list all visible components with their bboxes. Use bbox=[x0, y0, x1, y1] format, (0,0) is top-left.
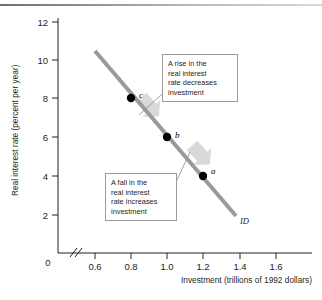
x-tick-label-1.0: 1.0 bbox=[160, 261, 173, 272]
annotation-fall-line-1: A fall in the bbox=[111, 178, 171, 188]
x-axis-ticks bbox=[95, 253, 276, 259]
annotation-fall-line-2: real interest bbox=[111, 188, 171, 198]
x-tick-label-1.4: 1.4 bbox=[233, 261, 246, 272]
cut-off-caption bbox=[8, 290, 308, 300]
y-tick-label-0: 0 bbox=[45, 257, 50, 268]
data-point-label-c: c bbox=[139, 90, 143, 100]
data-point-b[interactable] bbox=[163, 133, 171, 141]
x-axis-title: Investment (trillions of 1992 dollars) bbox=[181, 275, 312, 285]
annotation-rise-line-1: A rise in the bbox=[168, 59, 232, 69]
y-axis-ticks bbox=[52, 22, 58, 215]
data-point-c[interactable] bbox=[127, 94, 135, 102]
annotation-rise-in-rate: A rise in the real interest rate decreas… bbox=[162, 54, 238, 102]
curve-label-ID: ID bbox=[239, 216, 250, 226]
y-tick-label-10: 10 bbox=[37, 55, 48, 66]
x-tick-label-0.6: 0.6 bbox=[88, 261, 101, 272]
annotation-fall-line-3: rate increases bbox=[111, 197, 171, 207]
y-tick-label-2: 2 bbox=[43, 210, 48, 221]
annotation-fall-line-4: investment bbox=[111, 207, 171, 217]
y-tick-label-12: 12 bbox=[37, 17, 48, 28]
annotation-rise-line-4: investment bbox=[168, 88, 232, 98]
data-point-a[interactable] bbox=[199, 172, 207, 180]
x-tick-label-0.8: 0.8 bbox=[124, 261, 137, 272]
y-tick-label-4: 4 bbox=[43, 171, 48, 182]
annotation-rise-line-3: rate decreases bbox=[168, 78, 232, 88]
y-axis-title: Real interest rate (percent per year) bbox=[10, 64, 20, 196]
data-point-label-b: b bbox=[175, 130, 180, 140]
x-tick-label-1.2: 1.2 bbox=[196, 261, 209, 272]
data-point-label-a: a bbox=[211, 166, 216, 176]
y-tick-label-6: 6 bbox=[43, 132, 48, 143]
annotation-rise-line-2: real interest bbox=[168, 69, 232, 79]
investment-demand-figure: 12 10 8 6 4 2 0 Real interest rate (perc… bbox=[0, 0, 322, 300]
chart-plot-area: 12 10 8 6 4 2 0 Real interest rate (perc… bbox=[0, 0, 322, 300]
x-tick-label-1.6: 1.6 bbox=[269, 261, 282, 272]
y-tick-label-8: 8 bbox=[43, 93, 48, 104]
annotation-fall-in-rate: A fall in the real interest rate increas… bbox=[105, 173, 177, 221]
